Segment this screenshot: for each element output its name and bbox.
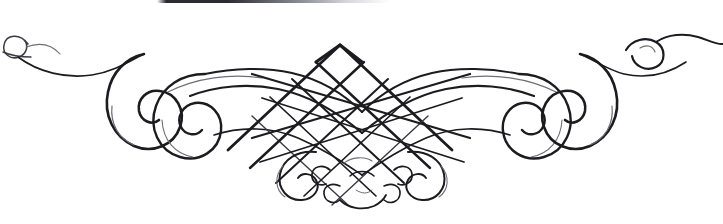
calligraphic-flourish-ornament xyxy=(0,0,723,224)
right-terminal-hook xyxy=(626,35,723,69)
left-outer-spiral xyxy=(107,54,182,149)
left-arc-band xyxy=(168,69,362,175)
left-inner-spiral xyxy=(153,74,221,158)
ornament-canvas xyxy=(0,0,723,224)
left-sweep xyxy=(18,45,144,77)
right-outer-spiral xyxy=(542,54,617,149)
right-arc-band xyxy=(362,69,556,175)
